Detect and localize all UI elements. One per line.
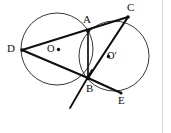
segment-db bbox=[22, 50, 88, 78]
point-label-a: A bbox=[83, 14, 91, 25]
point-label-c: C bbox=[127, 2, 134, 13]
center-o-dot bbox=[57, 48, 60, 51]
point-label-b: B bbox=[86, 83, 93, 94]
point-label-d: D bbox=[7, 43, 15, 54]
point-label-e: E bbox=[118, 95, 125, 106]
point-a-dot bbox=[86, 29, 90, 33]
segment-bc bbox=[88, 17, 128, 78]
geometry-figure: A B C D E O O′ bbox=[0, 0, 171, 133]
point-d-dot bbox=[20, 48, 24, 52]
point-c-dot bbox=[126, 15, 130, 19]
point-b-dot bbox=[86, 76, 90, 80]
center-label-o: O bbox=[47, 44, 55, 55]
segment-dc bbox=[22, 17, 128, 50]
center-label-o-prime: O′ bbox=[107, 51, 117, 62]
page-edge-line bbox=[162, 0, 163, 133]
